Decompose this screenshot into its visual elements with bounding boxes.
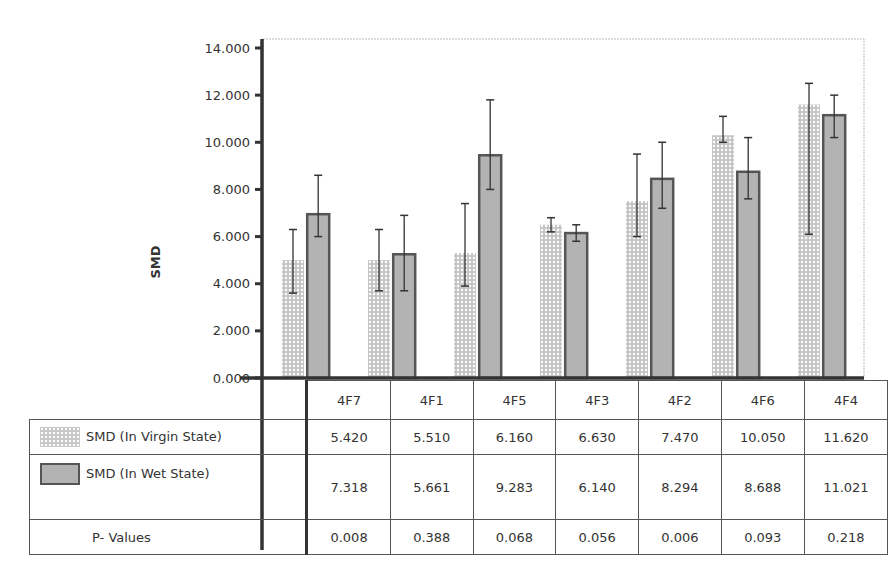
value-cell: 11.021 [804, 455, 887, 520]
y-tick-label: 6.000 [213, 229, 250, 244]
category-cell: 4F5 [473, 381, 556, 420]
y-tick-label: 2.000 [213, 323, 250, 338]
category-cell: 4F1 [390, 381, 473, 420]
y-tick-label: 4.000 [213, 276, 250, 291]
value-cell: 0.008 [307, 520, 391, 555]
category-cell: 4F3 [556, 381, 639, 420]
value-cell: 0.093 [721, 520, 804, 555]
value-cell: 0.388 [390, 520, 473, 555]
value-cell: 9.283 [473, 455, 556, 520]
bar-wet-4F7 [307, 214, 329, 378]
value-cell: 0.006 [639, 520, 722, 555]
gray-swatch-icon [40, 463, 80, 485]
bar-wet-4F3 [565, 233, 587, 378]
y-tick-label: 14.000 [205, 41, 251, 56]
value-cell: 0.218 [804, 520, 887, 555]
value-cell: 11.620 [804, 420, 887, 455]
y-tick-label: 12.000 [205, 88, 251, 103]
y-tick-label: 10.000 [205, 135, 251, 150]
value-cell: 10.050 [721, 420, 804, 455]
value-cell: 6.160 [473, 420, 556, 455]
dotted-swatch-icon [40, 427, 80, 447]
y-axis-label: SMD [148, 245, 163, 278]
value-cell: 5.510 [390, 420, 473, 455]
value-cell: 6.630 [556, 420, 639, 455]
value-cell: 8.294 [639, 455, 722, 520]
legend-wet: SMD (In Wet State) [30, 455, 307, 520]
category-cell: 4F4 [804, 381, 887, 420]
bar-virgin-4F6 [712, 135, 734, 378]
value-cell: 0.056 [556, 520, 639, 555]
table-row-pvalues: P- Values 0.008 0.388 0.068 0.056 0.006 … [30, 520, 888, 555]
value-cell: 0.068 [473, 520, 556, 555]
table-row-wet: SMD (In Wet State) 7.318 5.661 9.283 6.1… [30, 455, 888, 520]
category-cell: 4F7 [307, 381, 391, 420]
value-cell: 6.140 [556, 455, 639, 520]
category-cell: 4F6 [721, 381, 804, 420]
legend-virgin: SMD (In Virgin State) [30, 420, 307, 455]
bar-wet-4F6 [737, 172, 759, 378]
value-cell: 8.688 [721, 455, 804, 520]
row-label: P- Values [30, 520, 307, 555]
row-label: SMD (In Wet State) [86, 466, 210, 481]
value-cell: 5.420 [307, 420, 391, 455]
bars [282, 105, 845, 378]
value-cell: 7.470 [639, 420, 722, 455]
value-cell: 5.661 [390, 455, 473, 520]
y-tick-label: 8.000 [213, 182, 250, 197]
y-axis-ticks: 0.0002.0004.0006.0008.00010.00012.00014.… [205, 41, 263, 386]
value-cell: 7.318 [307, 455, 391, 520]
table-row-virgin: SMD (In Virgin State) 5.420 5.510 6.160 … [30, 420, 888, 455]
data-table: 4F7 4F1 4F5 4F3 4F2 4F6 4F4 SMD (In Virg… [29, 380, 888, 555]
table-corner [30, 381, 307, 420]
row-label: SMD (In Virgin State) [86, 429, 222, 444]
plot-area-border [263, 39, 864, 378]
table-header-row: 4F7 4F1 4F5 4F3 4F2 4F6 4F4 [30, 381, 888, 420]
bar-virgin-4F3 [540, 225, 562, 378]
bar-wet-4F4 [823, 115, 845, 378]
category-cell: 4F2 [639, 381, 722, 420]
